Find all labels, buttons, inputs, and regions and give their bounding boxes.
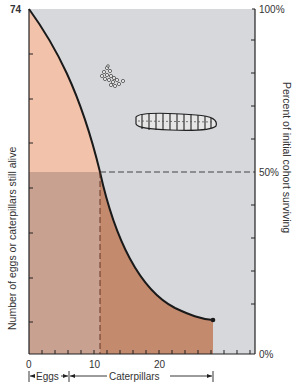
y-right-label-50: 50% — [259, 167, 279, 178]
x-tick-label-10: 10 — [89, 359, 101, 370]
y-right-axis-title: Percent of initial cohort surviving — [281, 82, 293, 233]
y-right-label-0: 0% — [259, 349, 274, 360]
y-left-top-label: 74 — [10, 4, 22, 15]
curve-endpoint — [211, 318, 216, 323]
y-left-axis-title: Number of eggs or caterpillars still ali… — [6, 147, 18, 330]
area-below-half-early — [29, 172, 100, 354]
caterpillar-illustration — [136, 113, 216, 130]
survivorship-chart: 74 0 10 20 100% 50% 0% Eggs Caterpillars… — [0, 0, 297, 382]
stage-label-eggs: Eggs — [36, 371, 59, 382]
y-right-label-100: 100% — [259, 4, 285, 15]
x-tick-label-0: 0 — [26, 359, 32, 370]
x-tick-label-20: 20 — [154, 359, 166, 370]
stage-label-caterpillars: Caterpillars — [109, 371, 160, 382]
